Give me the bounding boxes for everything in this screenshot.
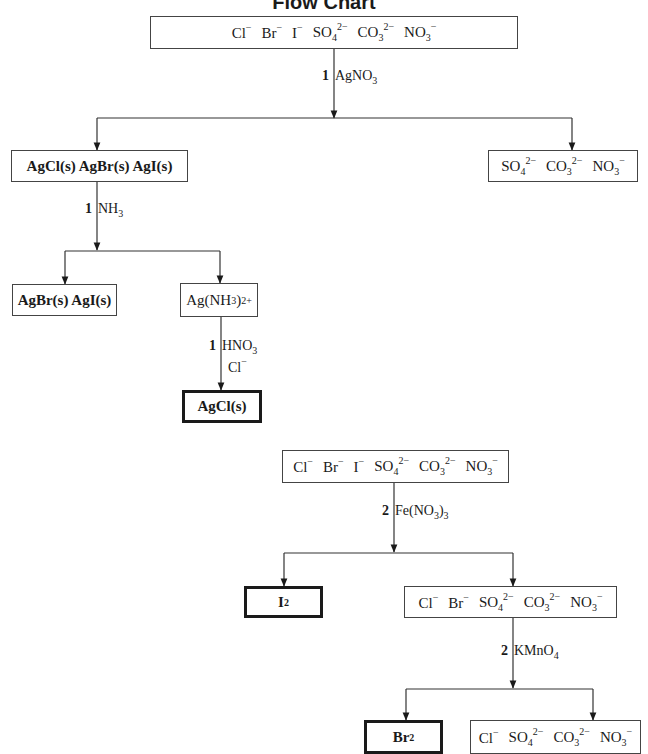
ion-label: Cl− <box>418 593 438 612</box>
ion-label: I− <box>292 23 303 42</box>
flow1-final-box: AgCl(s) <box>182 390 262 423</box>
flow2-solution1-box: Cl−Br−SO42−CO32−NO3− <box>404 586 617 618</box>
ion-label: SO42− <box>501 156 536 177</box>
flow2-iodine-box: I2 <box>244 586 323 618</box>
flow2-start-box: Cl−Br−I−SO42−CO32−NO3− <box>282 450 509 483</box>
ion-label: SO42− <box>479 592 514 613</box>
ion-label: NO3− <box>466 456 498 477</box>
ion-label: Br− <box>448 593 469 612</box>
ion-label: SO42− <box>509 727 544 748</box>
ion-label: CO32− <box>546 156 582 177</box>
ion-label: Cl− <box>479 728 499 747</box>
ion-label: NO3− <box>570 592 602 613</box>
ion-label: NO3− <box>404 22 436 43</box>
ion-label: Br− <box>261 23 282 42</box>
flow1-step1-label: 1AgNO3 <box>322 67 377 89</box>
ion-label: CO32− <box>524 592 560 613</box>
flow1-precipitate-box: AgCl(s) AgBr(s) AgI(s) <box>11 150 188 182</box>
flow2-step2-label: 2KMnO4 <box>501 642 559 664</box>
flow2-bromine-box: Br2 <box>364 720 443 754</box>
flow2-solution2-box: Cl−SO42−CO32−NO3− <box>470 720 641 754</box>
ion-label: SO42− <box>313 22 348 43</box>
flow1-start-box: Cl−Br−I−SO42−CO32−NO3− <box>150 16 518 49</box>
flow1-step2-label: 1NH3 <box>85 200 123 222</box>
ion-label: Cl− <box>293 457 313 476</box>
ion-label: CO32− <box>419 456 455 477</box>
flow1-residue-box: AgBr(s) AgI(s) <box>12 284 117 316</box>
ion-label: CO32− <box>358 22 394 43</box>
flow1-complex-box: Ag(NH3)2+ <box>180 283 258 317</box>
step-number: 1 <box>322 68 329 83</box>
flow1-step3-label-line2: Cl− <box>228 354 247 376</box>
ion-label: Br− <box>323 457 344 476</box>
ion-label: SO42− <box>374 456 409 477</box>
flow2-step1-label: 2Fe(NO3)3 <box>382 502 449 524</box>
ion-label: NO3− <box>600 727 632 748</box>
flow1-solution-box: SO42−CO32−NO3− <box>488 150 638 182</box>
ion-label: Cl− <box>232 23 252 42</box>
ion-label: NO3− <box>593 156 625 177</box>
ion-label: I− <box>354 457 365 476</box>
ion-label: CO32− <box>553 727 589 748</box>
